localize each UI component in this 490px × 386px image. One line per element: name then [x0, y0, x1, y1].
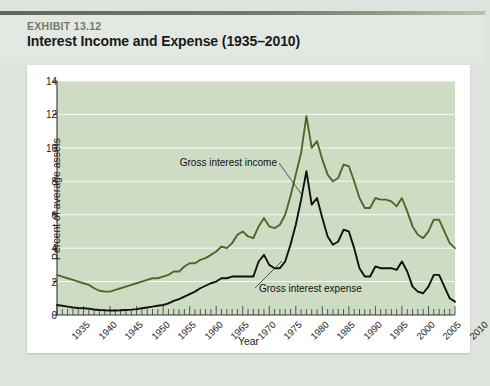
y-tick-label: 12 [37, 109, 57, 120]
plot-svg: Gross interest incomeGross interest expe… [27, 65, 470, 353]
y-axis-ticks: 02468101214 [35, 65, 57, 353]
annotation-expense: Gross interest expense [259, 283, 362, 294]
page-title: Interest Income and Expense (1935–2010) [27, 33, 300, 49]
y-tick-label: 10 [37, 142, 57, 153]
x-axis-title: Year [27, 335, 470, 347]
chart-figure: Percent of average assets 02468101214 Gr… [27, 65, 470, 353]
y-tick-label: 6 [37, 209, 57, 220]
y-tick-label: 8 [37, 176, 57, 187]
annotation-income: Gross interest income [180, 157, 278, 168]
y-tick-label: 4 [37, 243, 57, 254]
plot-background [57, 81, 455, 315]
exhibit-label: EXHIBIT 13.12 [27, 20, 102, 32]
y-tick-label: 2 [37, 276, 57, 287]
chart-card: Percent of average assets 02468101214 Gr… [27, 65, 470, 353]
x-tick-label: 2010 [467, 319, 490, 342]
y-tick-label: 14 [37, 76, 57, 87]
